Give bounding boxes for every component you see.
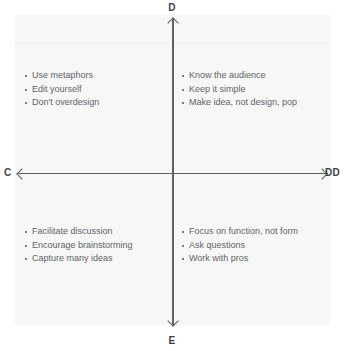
quadrant-top-right-list: Know the audience Keep it simple Make id… [182, 69, 297, 110]
list-item: Don't overdesign [25, 96, 99, 110]
list-item: Capture many ideas [25, 252, 133, 266]
list-item: Keep it simple [182, 83, 297, 97]
list-item: Make idea, not design, pop [182, 96, 297, 110]
list-item: Encourage brainstorming [25, 239, 133, 253]
list-item: Ask questions [182, 239, 298, 253]
axis-label-left: C [4, 168, 11, 178]
quadrant-bottom-right-list: Focus on function, not form Ask question… [182, 225, 298, 266]
list-item: Know the audience [182, 69, 297, 83]
list-item: Work with pros [182, 252, 298, 266]
vertical-axis-line [172, 18, 174, 325]
horizontal-axis-line [18, 173, 328, 175]
axis-label-right: DD [325, 168, 340, 178]
quadrant-top-left-list: Use metaphors Edit yourself Don't overde… [25, 69, 99, 110]
axis-label-top: D [168, 3, 175, 13]
list-item: Facilitate discussion [25, 225, 133, 239]
quadrant-bottom-left-list: Facilitate discussion Encourage brainsto… [25, 225, 133, 266]
list-item: Focus on function, not form [182, 225, 298, 239]
quadrant-diagram: D E C DD Use metaphors Edit yourself Don… [0, 0, 346, 351]
list-item: Edit yourself [25, 83, 99, 97]
axis-label-bottom: E [169, 336, 176, 346]
list-item: Use metaphors [25, 69, 99, 83]
